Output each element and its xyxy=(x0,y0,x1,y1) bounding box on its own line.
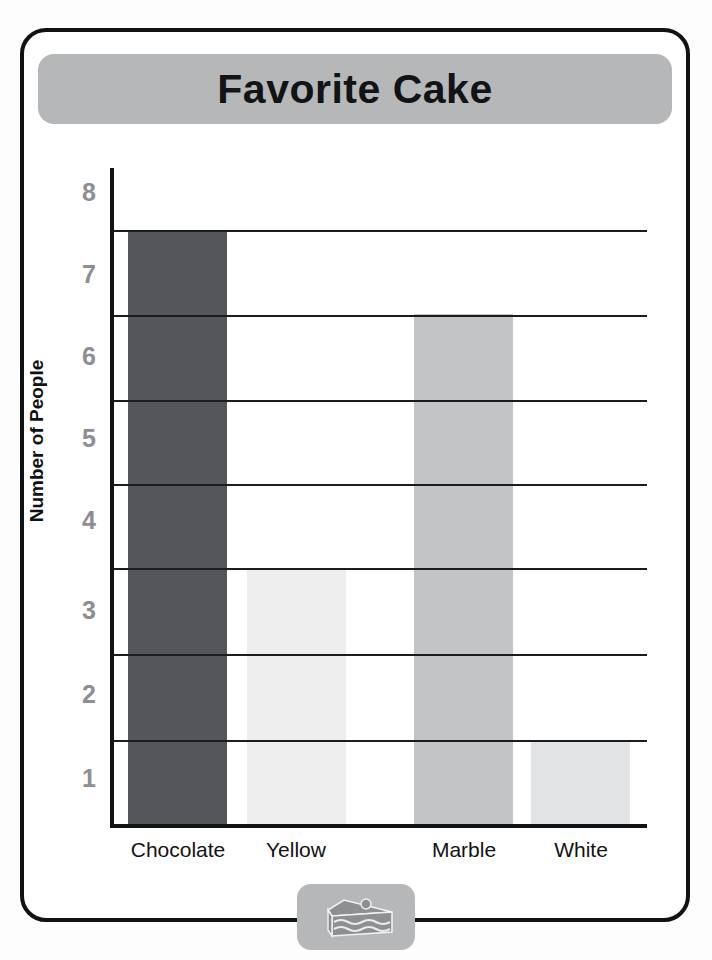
cake-badge xyxy=(297,884,415,950)
cake-slice-icon xyxy=(314,894,398,940)
worksheet-frame xyxy=(20,28,690,922)
worksheet-page: Write the number of people who like each… xyxy=(0,0,712,960)
page-title: Favorite Cake xyxy=(217,66,492,113)
chart-title-banner: Favorite Cake xyxy=(38,54,672,124)
